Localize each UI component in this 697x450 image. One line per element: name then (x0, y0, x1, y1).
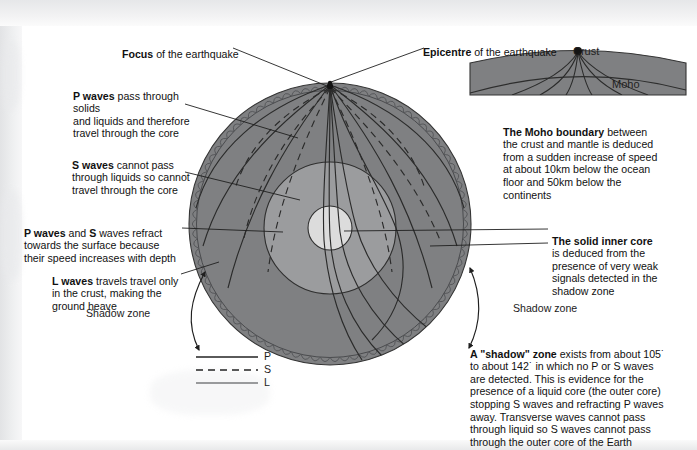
callout-s-waves-bold: S waves (72, 159, 114, 171)
callout-shadow-zone-rest: exists from about 105˙ to about 142˙ in … (470, 348, 665, 448)
callout-epicentre-bold: Epicentre (423, 46, 471, 58)
callout-focus-bold: Focus (122, 48, 153, 60)
callout-refract-bold: P waves (24, 227, 66, 239)
legend-keys (196, 357, 258, 383)
legend-label-p: P (264, 350, 271, 362)
callout-epicentre: Epicentre of the earthquake (423, 33, 557, 58)
callout-inner-core: The solid inner core is deduced from the… (552, 222, 692, 298)
callout-epicentre-rest: of the earthquake (471, 46, 556, 58)
leader-focus (233, 48, 327, 86)
callout-focus-rest: of the earthquake (153, 48, 238, 60)
legend-label-s: S (264, 363, 271, 375)
callout-p-waves: P waves pass through solids and liquids … (73, 77, 197, 140)
shadow-zone-label-right: Shadow zone (513, 302, 577, 314)
callout-l-waves-bold: L waves (52, 275, 93, 287)
shadow-zone-label-left: Shadow zone (86, 307, 150, 319)
callout-moho-bold: The Moho boundary (503, 126, 604, 138)
inset-moho-label: Moho (612, 78, 640, 90)
diagram-page: Focus of the earthquake Epicentre of the… (0, 0, 697, 450)
callout-shadow-zone-bold: A "shadow" zone (470, 348, 557, 360)
callout-focus: Focus of the earthquake (122, 35, 239, 60)
callout-inner-core-bold: The solid inner core (552, 235, 653, 247)
callout-inner-core-rest: is deduced from the presence of very wea… (552, 247, 658, 297)
legend-label-l: L (264, 376, 270, 388)
callout-refract-mid: and (66, 227, 90, 239)
inset-crust-label: Crust (573, 45, 599, 57)
leader-epicentre (331, 48, 424, 82)
callout-l-waves: L waves travels travel only in the crust… (52, 262, 202, 312)
callout-shadow-zone: A "shadow" zone exists from about 105˙ t… (470, 335, 692, 448)
callout-refract: P waves and S waves refract towards the … (24, 214, 199, 264)
callout-s-waves: S waves cannot pass through liquids so c… (72, 146, 196, 196)
callout-p-waves-bold: P waves (73, 90, 115, 102)
callout-moho: The Moho boundary between the crust and … (503, 113, 693, 201)
